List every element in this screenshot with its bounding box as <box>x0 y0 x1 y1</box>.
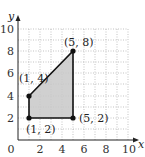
x-tick: 6 <box>81 143 88 156</box>
y-axis-label: y <box>7 10 15 23</box>
x-axis-label: x <box>138 138 145 151</box>
x-tick: 10 <box>122 143 136 156</box>
y-tick: 10 <box>0 23 14 36</box>
y-axis-arrow-icon <box>16 15 21 21</box>
point-5-8 <box>70 48 75 53</box>
point-1-4 <box>26 93 31 98</box>
y-tick: 6 <box>7 67 14 80</box>
y-tick: 4 <box>7 90 14 103</box>
point-label-5-8: (5, 8) <box>64 36 94 49</box>
point-label-1-4: (1, 4) <box>19 72 49 85</box>
y-tick: 8 <box>7 45 14 58</box>
chart: x y 0 2 4 6 8 10 2 4 6 8 10 (1, 2) (1, 4… <box>0 0 145 157</box>
x-tick-labels: 0 2 4 6 8 10 <box>8 143 137 156</box>
point-5-2 <box>70 115 75 120</box>
x-tick: 0 <box>8 143 15 156</box>
x-tick: 2 <box>37 143 44 156</box>
y-tick-labels: 2 4 6 8 10 <box>0 23 14 125</box>
point-label-1-2: (1, 2) <box>26 123 56 136</box>
point-1-2 <box>26 115 31 120</box>
y-tick: 2 <box>7 112 14 125</box>
x-tick: 4 <box>59 143 66 156</box>
point-label-5-2: (5, 2) <box>79 112 109 125</box>
x-tick: 8 <box>103 143 110 156</box>
